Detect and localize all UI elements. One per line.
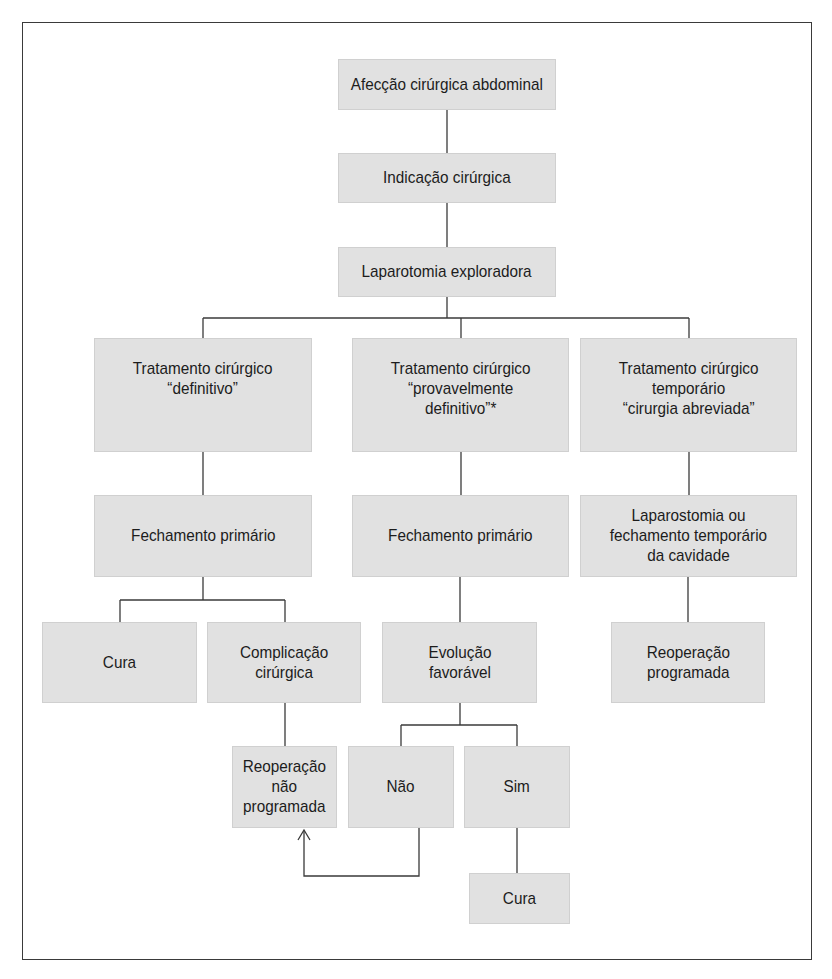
node-fechamento-primario-1: Fechamento primário	[94, 495, 312, 577]
node-evolucao-favoravel: Evolução favorável	[382, 622, 537, 703]
node-indicacao-cirurgica: Indicação cirúrgica	[338, 153, 556, 203]
node-laparotomia-exploradora: Laparotomia exploradora	[338, 247, 556, 297]
node-tratamento-temporario: Tratamento cirúrgico temporário “cirurgi…	[580, 338, 797, 452]
node-label: Tratamento cirúrgico temporário “cirurgi…	[619, 359, 759, 419]
node-reoperacao-programada: Reoperação programada	[611, 622, 765, 703]
node-complicacao-cirurgica: Complicação cirúrgica	[207, 622, 361, 703]
node-label: Indicação cirúrgica	[383, 168, 511, 188]
node-sim: Sim	[464, 746, 570, 828]
node-label: Fechamento primário	[388, 526, 533, 546]
node-tratamento-provavelmente-definitivo: Tratamento cirúrgico “provavelmente defi…	[352, 338, 569, 452]
node-label: Reoperação não programada	[243, 757, 326, 817]
node-label: Tratamento cirúrgico “definitivo”	[133, 359, 273, 399]
node-label: Tratamento cirúrgico “provavelmente defi…	[391, 359, 531, 419]
node-nao: Não	[348, 746, 454, 828]
node-cura-2: Cura	[469, 873, 570, 924]
node-label: Reoperação programada	[646, 643, 729, 683]
node-tratamento-definitivo: Tratamento cirúrgico “definitivo”	[94, 338, 312, 452]
node-afeccao-cirurgica: Afecção cirúrgica abdominal	[338, 59, 556, 110]
node-label: Laparotomia exploradora	[362, 262, 532, 282]
node-label: Evolução favorável	[428, 643, 491, 683]
node-label: Sim	[504, 777, 530, 797]
node-label: Não	[387, 777, 415, 797]
node-laparostomia: Laparostomia ou fechamento temporário da…	[580, 495, 797, 577]
node-label: Cura	[503, 889, 536, 909]
node-label: Afecção cirúrgica abdominal	[351, 75, 543, 95]
node-label: Fechamento primário	[131, 526, 276, 546]
node-cura-1: Cura	[42, 622, 197, 703]
node-fechamento-primario-2: Fechamento primário	[352, 495, 569, 577]
node-reoperacao-nao-programada: Reoperação não programada	[232, 746, 337, 828]
connector-lines	[0, 0, 832, 979]
node-label: Complicação cirúrgica	[240, 643, 328, 683]
node-label: Laparostomia ou fechamento temporário da…	[610, 506, 767, 566]
node-label: Cura	[103, 653, 136, 673]
